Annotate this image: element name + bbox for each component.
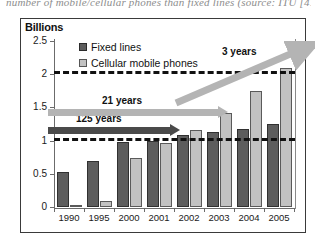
bar-2000-cellular <box>130 158 142 207</box>
x-tick-mark <box>174 208 175 212</box>
bar-2001-cellular <box>160 143 172 207</box>
legend-label-fixed-lines: Fixed lines <box>91 41 141 53</box>
x-tick-mark <box>264 208 265 212</box>
bar-1990-fixed-lines <box>57 172 69 207</box>
x-tick-label: 2005 <box>259 212 299 223</box>
chart-legend: Fixed lines Cellular mobile phones <box>79 41 198 73</box>
bar-2000-fixed-lines <box>117 142 129 207</box>
x-tick-mark <box>144 208 145 212</box>
x-tick-mark <box>54 208 55 212</box>
x-axis-line <box>54 208 296 209</box>
reference-line-1 <box>54 138 295 141</box>
x-tick-mark <box>234 208 235 212</box>
y-tick-label: 2 <box>23 68 47 79</box>
legend-item-cellular-mobile-phones: Cellular mobile phones <box>79 57 198 69</box>
bar-2001-fixed-lines <box>147 141 159 207</box>
bar-1995-fixed-lines <box>87 161 99 207</box>
x-tick-mark <box>294 208 295 212</box>
chart-frame: Billions 00.511.522.5 199019952000200120… <box>20 18 306 233</box>
annotation-label-21-years: 21 years <box>102 95 142 106</box>
bar-1990-cellular <box>70 205 82 207</box>
y-axis-title: Billions <box>25 21 63 33</box>
y-tick-label: 0.5 <box>23 168 47 179</box>
figure-caption: number of mobile/cellular phones than fi… <box>6 0 311 10</box>
annotation-label-3-years: 3 years <box>222 46 256 57</box>
legend-swatch-fixed-lines-icon <box>79 43 87 51</box>
bar-1995-cellular <box>100 201 112 207</box>
chart-screenshot: number of mobile/cellular phones than fi… <box>0 0 315 251</box>
x-tick-mark <box>204 208 205 212</box>
bar-2002-fixed-lines <box>177 135 189 207</box>
legend-item-fixed-lines: Fixed lines <box>79 41 198 53</box>
bar-2002-cellular <box>190 130 202 207</box>
bar-2005-fixed-lines <box>267 124 279 207</box>
x-tick-mark <box>84 208 85 212</box>
x-tick-mark <box>114 208 115 212</box>
legend-swatch-cellular-icon <box>79 59 87 67</box>
y-tick-label: 2.5 <box>23 35 47 46</box>
y-tick-label: 1 <box>23 135 47 146</box>
y-tick-label: 0 <box>23 201 47 212</box>
annotation-arrow-125-years <box>48 126 180 135</box>
legend-label-cellular-mobile-phones: Cellular mobile phones <box>91 57 198 69</box>
bar-2003-fixed-lines <box>207 132 219 207</box>
bar-2003-cellular <box>220 113 232 207</box>
y-tick-label: 1.5 <box>23 101 47 112</box>
